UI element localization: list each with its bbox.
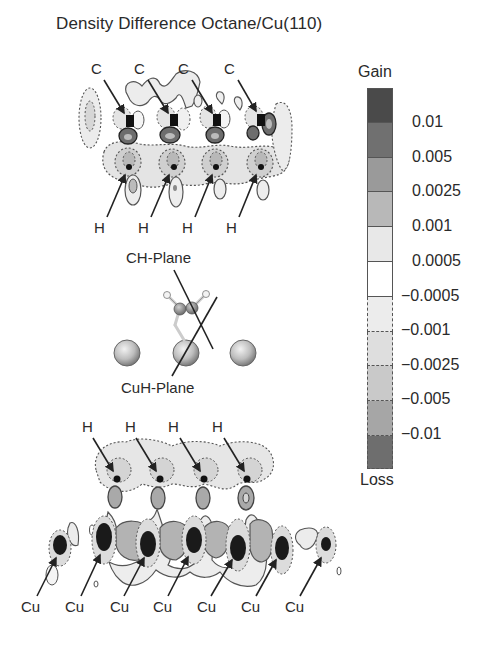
colorbar-tick: 0.001: [412, 217, 452, 235]
colorbar-box: [367, 332, 393, 366]
atom-label-cu: Cu: [21, 598, 40, 615]
atom-label-cu: Cu: [110, 598, 129, 615]
atom-label-cu: Cu: [197, 598, 216, 615]
colorbar-tick: 0.01: [412, 113, 443, 131]
colorbar-box: [367, 192, 393, 227]
atom-label-h: H: [125, 418, 136, 435]
colorbar-box: [367, 401, 393, 436]
ch-plane-contour-panel: [79, 71, 292, 217]
atom-label-cu: Cu: [285, 598, 304, 615]
colorbar-box: [367, 123, 393, 158]
atom-label-h: H: [212, 418, 223, 435]
ch-plane-label: CH-Plane: [126, 249, 191, 266]
colorbar-tick: −0.005: [401, 390, 450, 408]
atom-label-h: H: [226, 219, 237, 236]
atom-label-cu: Cu: [241, 598, 260, 615]
colorbar-tick: 0.0025: [412, 182, 461, 200]
colorbar-box: [367, 436, 393, 469]
cuh-plane-contour-panel: [37, 438, 341, 596]
atom-label-h: H: [138, 219, 149, 236]
colorbar: [367, 88, 393, 469]
colorbar-tick: −0.0005: [401, 287, 459, 305]
atom-label-h: H: [94, 219, 105, 236]
atom-label-cu: Cu: [153, 598, 172, 615]
colorbar-box: [367, 158, 393, 192]
atom-label-c: C: [134, 60, 145, 77]
colorbar-box: [367, 262, 393, 297]
atom-label-c: C: [178, 60, 189, 77]
atom-label-h: H: [82, 418, 93, 435]
colorbar-box: [367, 88, 393, 123]
atom-label-h: H: [168, 418, 179, 435]
colorbar-gain-label: Gain: [358, 63, 392, 81]
colorbar-tick: −0.01: [401, 425, 441, 443]
colorbar-box: [367, 227, 393, 262]
colorbar-tick: 0.005: [412, 148, 452, 166]
colorbar-box: [367, 297, 393, 332]
atom-label-h: H: [182, 219, 193, 236]
colorbar-tick: −0.001: [401, 321, 450, 339]
atom-label-c: C: [224, 60, 235, 77]
adsorption-schematic: [114, 270, 256, 376]
colorbar-tick: 0.0005: [412, 252, 461, 270]
atom-label-cu: Cu: [65, 598, 84, 615]
cuh-plane-label: CuH-Plane: [121, 379, 194, 396]
colorbar-box: [367, 366, 393, 401]
atom-label-c: C: [91, 60, 102, 77]
colorbar-loss-label: Loss: [360, 471, 394, 489]
colorbar-tick: −0.0025: [401, 356, 459, 374]
